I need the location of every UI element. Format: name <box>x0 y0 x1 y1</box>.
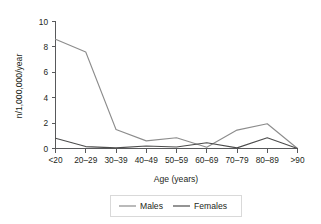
y-axis-title: n/1,000,000/year <box>14 54 24 119</box>
x-tick-label: 60–69 <box>195 155 218 165</box>
chart-figure: n/1,000,000/year 0 2 4 6 8 10 <box>0 0 321 224</box>
x-tick-label: 70–79 <box>225 155 248 165</box>
y-tick-marks <box>52 22 56 149</box>
x-tick-labels: <20 20–29 30–39 40–49 50–59 60–69 70–79 … <box>48 155 304 165</box>
y-tick-label: 2 <box>43 118 48 128</box>
x-tick-label: >90 <box>290 155 304 165</box>
y-tick-label: 0 <box>43 144 48 154</box>
x-tick-marks <box>56 149 298 153</box>
y-tick-label: 4 <box>43 93 48 103</box>
chart-legend: Males Females <box>111 196 242 217</box>
x-tick-label: 20–29 <box>74 155 97 165</box>
x-tick-label: <20 <box>48 155 62 165</box>
y-tick-label: 6 <box>43 67 48 77</box>
x-tick-label: 40–49 <box>135 155 158 165</box>
series-line-females <box>56 138 298 149</box>
series-line-males <box>56 39 298 148</box>
x-tick-label: 30–39 <box>104 155 127 165</box>
y-tick-label: 10 <box>39 17 49 27</box>
legend-label-females: Females <box>194 201 227 211</box>
y-tick-label: 8 <box>43 42 48 52</box>
line-chart: n/1,000,000/year 0 2 4 6 8 10 <box>0 0 321 224</box>
legend-label-males: Males <box>140 201 163 211</box>
x-tick-label: 50–59 <box>165 155 188 165</box>
x-axis-title: Age (years) <box>154 174 199 184</box>
x-tick-label: 80–89 <box>256 155 279 165</box>
y-tick-labels: 0 2 4 6 8 10 <box>39 17 49 154</box>
